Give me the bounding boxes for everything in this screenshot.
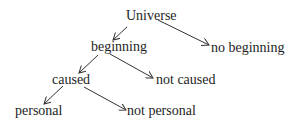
node-universe: Universe (126, 9, 177, 23)
node-not-caused: not caused (156, 73, 215, 87)
edge-caused-personal (44, 86, 63, 104)
node-not-personal: not personal (127, 104, 196, 118)
edge-universe-no-beginning (158, 20, 209, 45)
node-personal: personal (15, 104, 62, 118)
node-beginning: beginning (91, 40, 147, 54)
node-no-beginning: no beginning (211, 41, 285, 55)
edge-beginning-caused (79, 55, 98, 73)
tree-diagram: Universe beginning no beginning caused n… (0, 0, 294, 125)
edge-caused-not-personal (84, 87, 126, 110)
edge-beginning-not-caused (110, 54, 153, 78)
node-caused: caused (52, 73, 90, 87)
